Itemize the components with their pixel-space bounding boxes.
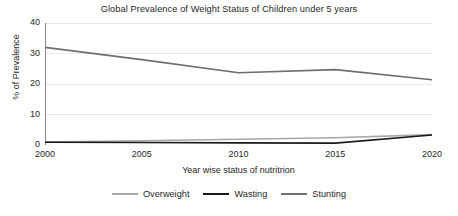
series-line-stunting [45, 47, 432, 79]
x-tick-label: 2005 [119, 150, 165, 159]
x-tick-label: 2020 [409, 150, 455, 159]
legend-swatch-icon [281, 193, 307, 195]
legend-label: Stunting [312, 189, 346, 199]
legend-swatch-icon [112, 193, 138, 195]
x-tick-label: 2010 [216, 150, 262, 159]
x-tick-label: 2015 [312, 150, 358, 159]
gridlines [45, 23, 432, 145]
x-tick-label: 2000 [22, 150, 68, 159]
line-chart: Global Prevalence of Weight Status of Ch… [0, 0, 458, 216]
legend-swatch-icon [203, 193, 229, 195]
y-tick-label: 40 [14, 18, 40, 27]
legend-item-overweight[interactable]: Overweight [112, 189, 189, 199]
y-tick-label: 0 [14, 140, 40, 149]
x-axis-tick-labels: 20002005201020152020 [45, 150, 432, 164]
legend-label: Wasting [234, 189, 267, 199]
chart-title: Global Prevalence of Weight Status of Ch… [0, 4, 458, 14]
legend-item-wasting[interactable]: Wasting [203, 189, 267, 199]
y-tick-label: 30 [14, 49, 40, 58]
plot-area [45, 23, 432, 145]
y-tick-label: 10 [14, 110, 40, 119]
y-tick-label: 20 [14, 79, 40, 88]
series-line-overweight [45, 135, 432, 142]
chart-legend: OverweightWastingStunting [0, 189, 458, 199]
x-axis-title: Year wise status of nutritrion [45, 165, 432, 175]
legend-item-stunting[interactable]: Stunting [281, 189, 346, 199]
y-axis-tick-labels: 010203040 [10, 23, 40, 145]
plot-svg [45, 23, 432, 145]
legend-label: Overweight [143, 189, 189, 199]
series-lines [45, 47, 432, 143]
